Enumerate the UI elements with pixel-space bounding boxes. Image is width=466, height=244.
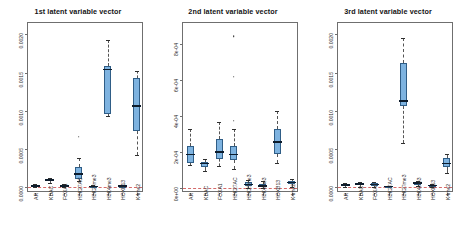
whisker-upper xyxy=(79,158,80,167)
y-axis-tick xyxy=(335,73,338,74)
median-line xyxy=(355,183,364,185)
whisker-upper xyxy=(234,129,235,146)
median-line xyxy=(103,69,112,71)
box-plot-box xyxy=(443,23,450,193)
whisker-lower xyxy=(234,160,235,169)
x-axis-category-label: KDAC xyxy=(203,186,209,200)
box-plot-box xyxy=(201,23,208,193)
y-axis-tick-label: 6e-04 xyxy=(173,79,179,92)
whisker-cap-upper xyxy=(232,129,236,130)
x-axis-category-label: FOXA1 xyxy=(217,183,223,200)
whisker-cap-lower xyxy=(445,173,449,174)
plot-area xyxy=(28,23,142,191)
box-plot-box xyxy=(385,23,392,193)
whisker-cap-upper xyxy=(445,154,449,155)
x-axis-category-label: AR xyxy=(343,193,349,200)
x-axis-category-label: H3K27AC xyxy=(232,177,238,200)
whisker-cap-upper xyxy=(217,122,221,123)
whisker-cap-lower xyxy=(135,155,139,156)
x-axis-category-label: HOXB13 xyxy=(275,180,281,200)
whisker-upper xyxy=(137,71,138,78)
box-plot-box xyxy=(429,23,436,193)
y-axis-tick-label: 8e-04 xyxy=(173,43,179,56)
outlier-point xyxy=(233,36,235,38)
y-axis-tick xyxy=(180,116,183,117)
plot-frame xyxy=(337,22,453,192)
whisker-cap-lower xyxy=(275,163,279,164)
y-axis-tick-label: 0.0005 xyxy=(18,148,24,164)
box-plot-box xyxy=(133,23,140,193)
median-line xyxy=(229,154,238,156)
whisker-cap-lower xyxy=(48,183,52,184)
whisker-cap-upper xyxy=(106,40,110,41)
box-plot-box xyxy=(274,23,281,193)
box-plot-box xyxy=(75,23,82,193)
x-axis-category-label: H3K4me3 xyxy=(416,177,422,200)
median-line xyxy=(215,151,224,153)
x-axis-category-label: H3K27me3 xyxy=(91,175,97,200)
whisker-upper xyxy=(403,38,404,63)
box-plot-box xyxy=(32,23,39,193)
outlier-point xyxy=(233,120,235,122)
whisker-cap-lower xyxy=(203,171,207,172)
plot-frame xyxy=(27,22,143,192)
box-plot-box xyxy=(46,23,53,193)
outlier-point xyxy=(78,136,80,138)
y-axis-tick-label: 0.0000 xyxy=(18,186,24,202)
median-line xyxy=(399,100,408,102)
whisker-cap-lower xyxy=(232,169,236,170)
median-line xyxy=(273,141,282,143)
whisker-cap-upper xyxy=(203,159,207,160)
x-axis-category-label: H3K27me3 xyxy=(246,175,252,200)
panel-title: 2nd latent variable vector xyxy=(155,7,311,16)
median-line xyxy=(442,163,451,165)
y-axis-tick xyxy=(25,111,28,112)
whisker-cap-upper xyxy=(135,71,139,72)
panel-title: 1st latent variable vector xyxy=(0,7,156,16)
whisker-upper xyxy=(108,40,109,67)
y-axis-tick-label: 0.0020 xyxy=(328,33,334,49)
whisker-lower xyxy=(137,131,138,155)
whisker-cap-upper xyxy=(77,158,81,159)
y-axis-tick xyxy=(25,73,28,74)
whisker-cap-lower xyxy=(343,187,347,188)
whisker-cap-lower xyxy=(401,143,405,144)
x-axis-category-label: H3K27AC xyxy=(77,177,83,200)
box-plot-box xyxy=(259,23,266,193)
median-line xyxy=(31,185,40,187)
y-axis-tick xyxy=(180,44,183,45)
median-line xyxy=(200,163,209,165)
whisker-upper xyxy=(219,122,220,139)
y-axis-tick xyxy=(25,149,28,150)
y-axis-tick-label: 0.0010 xyxy=(328,110,334,126)
whisker-cap-upper xyxy=(290,179,294,180)
y-axis-tick-label: 0.0000 xyxy=(328,186,334,202)
whisker-cap-lower xyxy=(188,165,192,166)
y-axis-tick xyxy=(335,149,338,150)
y-axis-tick-label: 0.0005 xyxy=(328,148,334,164)
x-axis-category-label: KDAC xyxy=(358,186,364,200)
whisker-cap-upper xyxy=(275,111,279,112)
whisker-cap-upper xyxy=(188,129,192,130)
median-line xyxy=(341,184,350,186)
boxplot-figure: 1st latent variable vector 0.00000.00050… xyxy=(0,0,466,244)
plot-area xyxy=(183,23,297,191)
y-axis-tick xyxy=(180,80,183,81)
median-line xyxy=(45,179,54,181)
x-axis-category-label: K4me2 xyxy=(290,184,296,200)
whisker-cap-lower xyxy=(106,116,110,117)
y-axis-tick-label: 4e-04 xyxy=(173,115,179,128)
x-axis-category-label: AR xyxy=(188,193,194,200)
box-plot-box xyxy=(245,23,252,193)
whisker-lower xyxy=(277,154,278,164)
box-plot-box xyxy=(119,23,126,193)
box-plot-box xyxy=(371,23,378,193)
x-axis-category-label: KDAC xyxy=(48,186,54,200)
whisker-upper xyxy=(277,111,278,130)
x-axis-category-label: FOXA1 xyxy=(62,183,68,200)
box-plot-box xyxy=(288,23,295,193)
box-plot-box xyxy=(61,23,68,193)
y-axis-tick-label: 0.0020 xyxy=(18,33,24,49)
y-axis-tick xyxy=(180,152,183,153)
x-axis-category-label: HOXB13 xyxy=(120,180,126,200)
